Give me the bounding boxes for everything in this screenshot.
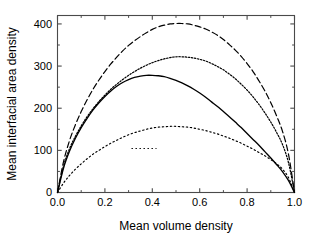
x-tick-label: 0.6 (192, 196, 207, 208)
y-tick-label: 400 (34, 18, 52, 30)
x-tick-label: 1.0 (287, 196, 302, 208)
x-tick-label: 0.0 (50, 196, 65, 208)
chart-figure: 0.00.20.40.60.81.0 0100200300400 Mean vo… (0, 0, 316, 238)
y-tick-label: 300 (34, 60, 52, 72)
x-tick-label: 0.2 (97, 196, 112, 208)
y-tick-label: 200 (34, 102, 52, 114)
y-tick-label: 0 (46, 186, 52, 198)
y-axis-title: Mean interfacial area density (5, 27, 19, 180)
x-tick-label: 0.8 (239, 196, 254, 208)
x-tick-label: 0.4 (145, 196, 160, 208)
line-chart: 0.00.20.40.60.81.0 0100200300400 Mean vo… (0, 0, 316, 238)
x-axis-title: Mean volume density (119, 219, 232, 233)
y-tick-label: 100 (34, 144, 52, 156)
